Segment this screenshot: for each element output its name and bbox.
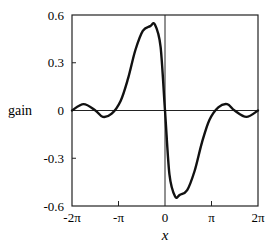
y-axis-label: gain [8, 103, 32, 118]
y-tick-label: 0.3 [48, 55, 64, 70]
y-tick-labels: 0.6 0.3 0 -0.3 -0.6 [43, 8, 64, 214]
x-axis-label: x [161, 227, 169, 243]
y-tick-label: 0 [58, 103, 65, 118]
y-tick-label: 0.6 [48, 8, 65, 23]
x-tick-label: π [208, 210, 215, 225]
x-tick-label: -2π [63, 210, 81, 225]
chart: 0.6 0.3 0 -0.3 -0.6 -2π -π 0 π 2π gain x [0, 0, 273, 245]
y-tick-label: -0.6 [43, 199, 64, 214]
x-tick-label: -π [113, 210, 124, 225]
y-tick-label: -0.3 [43, 151, 64, 166]
x-tick-labels: -2π -π 0 π 2π [63, 210, 265, 225]
x-tick-label: 0 [162, 210, 169, 225]
x-tick-label: 2π [251, 210, 265, 225]
